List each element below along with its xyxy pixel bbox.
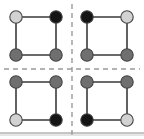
graph-node-top-right[interactable] — [50, 76, 62, 88]
graph-node-top-left[interactable] — [10, 76, 22, 88]
graph-node-bottom-right[interactable] — [50, 49, 62, 61]
graph-node-top-left[interactable] — [10, 11, 22, 23]
graph-node-bottom-left[interactable] — [81, 114, 93, 126]
panel-top-right — [81, 11, 133, 61]
panel-bottom-right — [81, 76, 133, 126]
graph-node-bottom-left[interactable] — [81, 49, 93, 61]
graph-node-bottom-right[interactable] — [121, 49, 133, 61]
panel-top-left — [10, 11, 62, 61]
graph-node-bottom-left[interactable] — [10, 49, 22, 61]
figure-canvas — [0, 0, 144, 139]
graph-node-bottom-left[interactable] — [10, 114, 22, 126]
graph-node-top-right[interactable] — [121, 11, 133, 23]
graph-node-bottom-right[interactable] — [50, 114, 62, 126]
four-panel-graph-figure — [0, 0, 144, 139]
graph-node-bottom-right[interactable] — [121, 114, 133, 126]
panel-bottom-left — [10, 76, 62, 126]
graph-node-top-left[interactable] — [81, 76, 93, 88]
graph-node-top-left[interactable] — [81, 11, 93, 23]
graph-node-top-right[interactable] — [121, 76, 133, 88]
graph-node-top-right[interactable] — [50, 11, 62, 23]
